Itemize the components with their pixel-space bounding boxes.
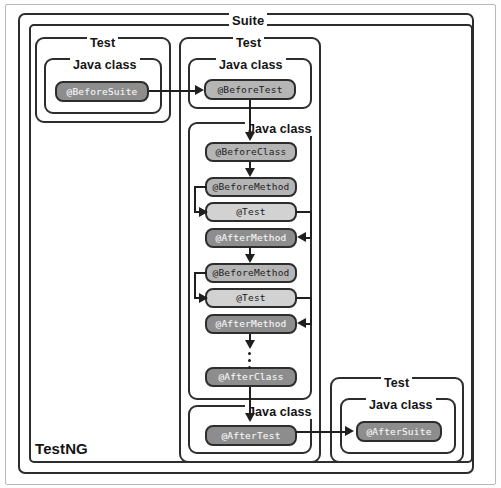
javaclass-label-before-suite: Java class [70, 58, 140, 72]
connector-before-test-to-before-class [249, 100, 251, 133]
testng-lifecycle-diagram: TestNG Suite Test Java class @BeforeSuit… [0, 0, 501, 488]
arrowhead-before-test [195, 85, 204, 95]
annotation-before-method-2: @BeforeMethod [205, 263, 297, 283]
arrowhead-after-method-2 [297, 318, 306, 328]
annotation-test-2: @Test [205, 288, 297, 308]
annotation-before-suite: @BeforeSuite [55, 81, 149, 102]
dot [248, 359, 251, 362]
annotation-test-1: @Test [205, 202, 297, 222]
connector-after-test-to-after-suite [296, 431, 348, 433]
test-label-right: Test [381, 376, 412, 390]
annotation-after-method-2: @AfterMethod [205, 314, 297, 334]
annotation-after-test: @AfterTest [205, 425, 297, 446]
arrowhead-before-class [245, 132, 255, 141]
connector-before-suite-to-before-test [149, 90, 196, 92]
arrowhead-before-method-2 [245, 254, 255, 263]
javaclass-label-methods: Java class [245, 122, 315, 136]
test-label-left: Test [87, 36, 118, 50]
connector-test1-loop-side [310, 211, 312, 237]
arrowhead-after-test [245, 413, 255, 422]
annotation-after-class: @AfterClass [205, 367, 297, 387]
dot [248, 366, 251, 369]
annotation-before-method-1: @BeforeMethod [205, 177, 297, 197]
arrowhead-after-method-1 [297, 232, 306, 242]
arrowhead-before-method-1 [245, 168, 255, 177]
connector-bm2-loop-side [194, 272, 196, 298]
arrowhead-test-1 [199, 207, 208, 217]
dot [248, 352, 251, 355]
javaclass-label-after-suite: Java class [366, 398, 436, 412]
arrowhead-after-suite [345, 426, 354, 436]
dotted-continuation [248, 352, 251, 373]
annotation-before-class: @BeforeClass [205, 142, 297, 162]
arrowhead-repeat-continuation [245, 340, 255, 349]
annotation-after-suite: @AfterSuite [356, 421, 442, 442]
arrowhead-test-2 [199, 293, 208, 303]
javaclass-label-after-test: Java class [245, 405, 315, 419]
javaclass-label-before-test: Java class [216, 58, 286, 72]
annotation-after-method-1: @AfterMethod [205, 228, 297, 248]
annotation-before-test: @BeforeTest [204, 79, 296, 100]
connector-after-class-to-after-test [249, 387, 251, 415]
connector-bm1-loop-side [194, 186, 196, 212]
test-label-main: Test [233, 36, 264, 50]
suite-label: Suite [229, 13, 267, 28]
connector-test2-loop-side [310, 297, 312, 323]
